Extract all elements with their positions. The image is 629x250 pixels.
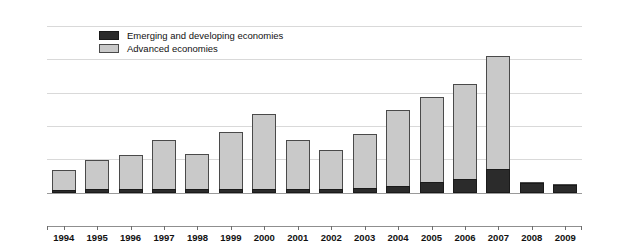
x-axis-tick-2002 (331, 226, 332, 230)
x-axis-tick-2009 (565, 226, 566, 230)
bar-segment-emerging-1997 (152, 189, 176, 193)
gridline-0 (47, 193, 582, 194)
x-axis: 1994199519961997199819992000200120022003… (47, 226, 582, 250)
x-axis-tick-2003 (365, 226, 366, 230)
bar-segment-advanced-1996 (119, 155, 143, 190)
bar-1994[interactable] (52, 169, 76, 192)
bar-segment-advanced-1995 (85, 160, 109, 190)
bar-segment-advanced-2007 (486, 56, 510, 170)
bar-segment-emerging-2004 (386, 186, 410, 193)
x-axis-tick-2005 (432, 226, 433, 230)
bar-1997[interactable] (152, 139, 176, 193)
x-axis-tick-2004 (398, 226, 399, 230)
bar-segment-advanced-2006 (453, 84, 477, 180)
bar-segment-emerging-1995 (85, 189, 109, 192)
x-axis-tick-1994 (64, 226, 65, 230)
bar-segment-emerging-2005 (420, 182, 444, 193)
bar-segment-advanced-2003 (353, 134, 377, 189)
bar-segment-advanced-1994 (52, 170, 76, 191)
x-axis-edge-tick-0 (47, 226, 48, 230)
x-axis-tick-1996 (131, 226, 132, 230)
bar-segment-advanced-2004 (386, 110, 410, 187)
bar-2003[interactable] (353, 133, 377, 193)
x-axis-tick-2008 (532, 226, 533, 230)
legend-swatch-emerging-icon (99, 31, 119, 40)
bar-segment-advanced-1999 (219, 132, 243, 190)
bar-segment-advanced-2001 (286, 140, 310, 190)
bar-2000[interactable] (252, 113, 276, 193)
bar-segment-emerging-2006 (453, 179, 477, 193)
legend-item-advanced[interactable]: Advanced economies (99, 43, 283, 54)
legend-swatch-advanced-icon (99, 44, 119, 53)
x-axis-label-2009: 2009 (545, 233, 585, 243)
bar-segment-emerging-2000 (252, 189, 276, 193)
bar-2004[interactable] (386, 109, 410, 192)
bar-2009[interactable] (553, 184, 577, 193)
bar-segment-emerging-2008 (520, 183, 544, 193)
bar-segment-emerging-2009 (553, 185, 577, 193)
bar-2007[interactable] (486, 55, 510, 192)
bar-segment-advanced-2002 (319, 150, 343, 190)
bar-2001[interactable] (286, 139, 310, 192)
x-axis-tick-2000 (264, 226, 265, 230)
bar-segment-advanced-1997 (152, 140, 176, 190)
legend-item-emerging[interactable]: Emerging and developing economies (99, 30, 283, 41)
bar-segment-advanced-2000 (252, 114, 276, 190)
bar-segment-emerging-1996 (119, 189, 143, 192)
bar-segment-emerging-1994 (52, 190, 76, 193)
bar-2006[interactable] (453, 83, 477, 193)
bar-1996[interactable] (119, 154, 143, 193)
bar-segment-emerging-2001 (286, 189, 310, 192)
bar-segment-emerging-2002 (319, 189, 343, 192)
plot-area: 25252020151510105500-5-5 (47, 26, 582, 226)
x-axis-tick-2006 (465, 226, 466, 230)
bar-1999[interactable] (219, 131, 243, 192)
x-axis-tick-1997 (164, 226, 165, 230)
bar-segment-emerging-1998 (185, 189, 209, 192)
bar-2002[interactable] (319, 149, 343, 192)
bar-1998[interactable] (185, 153, 209, 193)
chart-legend: Emerging and developing economiesAdvance… (99, 30, 283, 54)
legend-label-emerging: Emerging and developing economies (127, 31, 283, 41)
bar-segment-advanced-2005 (420, 97, 444, 183)
bar-segment-emerging-2007 (486, 169, 510, 192)
bar-1995[interactable] (85, 159, 109, 192)
legend-label-advanced: Advanced economies (127, 44, 218, 54)
bar-segment-emerging-1999 (219, 189, 243, 192)
x-axis-tick-1999 (231, 226, 232, 230)
x-axis-tick-2007 (498, 226, 499, 230)
bar-segment-advanced-1998 (185, 154, 209, 191)
x-axis-tick-2001 (298, 226, 299, 230)
stacked-bar-chart: 25252020151510105500-5-5 199419951996199… (0, 0, 629, 250)
x-axis-tick-1998 (197, 226, 198, 230)
x-axis-edge-tick-1 (581, 226, 582, 230)
x-axis-tick-1995 (97, 226, 98, 230)
bar-2008[interactable] (520, 182, 544, 193)
bar-segment-emerging-2003 (353, 188, 377, 193)
gridline-25 (47, 26, 582, 27)
bar-2005[interactable] (420, 96, 444, 193)
